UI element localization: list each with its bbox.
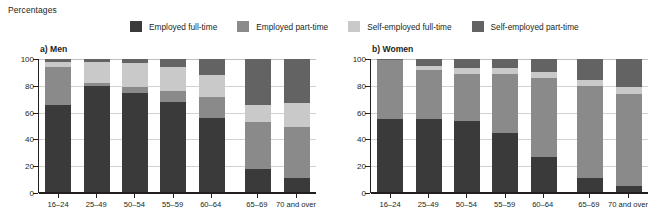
stacked-bar[interactable]: [84, 59, 110, 193]
legend-label-self_employed_full_time: Self-employed full-time: [367, 22, 451, 32]
x-axis-label: 50–54: [447, 194, 485, 212]
x-tick-mark: [543, 194, 544, 198]
bar-segment: [416, 70, 442, 120]
legend-swatch-self_employed_full_time: [348, 21, 360, 32]
bar-segment: [492, 133, 518, 193]
bar-segment: [160, 59, 186, 67]
stacked-bar[interactable]: [45, 59, 71, 193]
x-tick-mark: [173, 194, 174, 198]
legend-swatch-self_employed_part_time: [472, 21, 484, 32]
legend-label-employed_full_time: Employed full-time: [149, 22, 217, 32]
y-tick-label-80: 80: [348, 81, 366, 90]
bar-segment: [416, 119, 442, 193]
x-tick-mark: [466, 194, 467, 198]
y-tick-label-40: 40: [16, 135, 34, 144]
bar-segment: [160, 102, 186, 193]
stacked-bar[interactable]: [416, 59, 442, 193]
x-axis-labels: 16–2425–4950–5455–5960–6465–6970 and ove…: [39, 194, 316, 212]
stacked-bar[interactable]: [616, 59, 642, 193]
x-axis-label: 55–59: [153, 194, 191, 212]
stacked-bar[interactable]: [492, 59, 518, 193]
page-title: Percentages: [8, 5, 57, 15]
bar-segment: [84, 62, 110, 83]
legend-item-self_employed_part_time[interactable]: Self-employed part-time: [472, 21, 579, 32]
bar-segment: [284, 178, 310, 193]
x-axis-line: [371, 192, 648, 193]
stacked-bar[interactable]: [577, 59, 603, 193]
bar-slot-55–59: [486, 59, 524, 193]
bar-segment: [531, 59, 557, 72]
x-axis-label: 70 and over: [276, 194, 316, 212]
bar-segment: [616, 87, 642, 94]
y-tick-label-0: 0: [16, 189, 34, 198]
x-axis-label: 65–69: [570, 194, 608, 212]
y-tick-label-100: 100: [348, 55, 366, 64]
x-tick-mark: [296, 194, 297, 198]
bar-segment: [416, 59, 442, 66]
y-tick-label-40: 40: [348, 135, 366, 144]
bar-segment: [199, 118, 225, 193]
bar-segment: [454, 74, 480, 121]
legend-label-self_employed_part_time: Self-employed part-time: [491, 22, 579, 32]
bar-segment: [199, 97, 225, 118]
bar-segment: [122, 63, 148, 87]
stacked-bar[interactable]: [160, 59, 186, 193]
y-tick-label-100: 100: [16, 55, 34, 64]
bar-segment: [454, 59, 480, 68]
bar-segment: [616, 59, 642, 87]
chart-legend: Employed full-timeEmployed part-timeSelf…: [130, 21, 599, 32]
stacked-bar[interactable]: [454, 59, 480, 193]
legend-item-employed_full_time[interactable]: Employed full-time: [130, 21, 217, 32]
stacked-bar[interactable]: [199, 59, 225, 193]
bar-segment: [377, 119, 403, 193]
bar-slot-25–49: [77, 59, 115, 193]
bar-slot-60–64: [525, 59, 563, 193]
bar-segment: [45, 67, 71, 105]
stacked-bar[interactable]: [245, 59, 271, 193]
bar-segment: [245, 105, 271, 122]
panel-title-women: b) Women: [372, 44, 648, 54]
y-tick-label-60: 60: [16, 108, 34, 117]
x-tick-mark: [96, 194, 97, 198]
bar-slot-16–24: [39, 59, 77, 193]
y-tick-label-0: 0: [348, 189, 366, 198]
bar-segment: [284, 127, 310, 178]
stacked-bar[interactable]: [122, 59, 148, 193]
x-axis-label: 55–59: [485, 194, 523, 212]
bar-segment: [284, 59, 310, 103]
stacked-bar[interactable]: [531, 59, 557, 193]
x-axis-label: 25–49: [409, 194, 447, 212]
x-tick-mark: [589, 194, 590, 198]
x-axis-labels: 16–2425–4950–5455–5960–6465–6970 and ove…: [371, 194, 648, 212]
bar-slot-25–49: [409, 59, 447, 193]
panel-title-men: a) Men: [40, 44, 316, 54]
bar-segment: [245, 169, 271, 193]
bars-container: [39, 59, 316, 193]
x-tick-mark: [211, 194, 212, 198]
bar-segment: [377, 60, 403, 119]
legend-swatch-employed_full_time: [130, 21, 142, 32]
bar-segment: [245, 122, 271, 169]
legend-item-employed_part_time[interactable]: Employed part-time: [237, 21, 328, 32]
y-tick-label-20: 20: [348, 162, 366, 171]
y-tick-label-20: 20: [16, 162, 34, 171]
x-axis-label: 16–24: [39, 194, 77, 212]
x-tick-mark: [257, 194, 258, 198]
x-tick-mark: [134, 194, 135, 198]
bar-segment: [454, 121, 480, 193]
bar-segment: [160, 67, 186, 91]
bar-segment: [531, 157, 557, 193]
bar-slot-65–69: [239, 59, 277, 193]
bar-slot-70-and-over: [610, 59, 648, 193]
chart-panel-men: a) Men 10080604020016–2425–4950–5455–596…: [16, 44, 316, 214]
chart-panel-women: b) Women 10080604020016–2425–4950–5455–5…: [348, 44, 648, 214]
stacked-bar[interactable]: [377, 59, 403, 193]
y-tick-label-60: 60: [348, 108, 366, 117]
plot-area-women: 10080604020016–2425–4950–5455–5960–6465–…: [348, 59, 648, 214]
stacked-bar[interactable]: [284, 59, 310, 193]
bar-segment: [199, 75, 225, 96]
bar-segment: [84, 86, 110, 193]
bar-slot-70-and-over: [278, 59, 316, 193]
x-tick-mark: [390, 194, 391, 198]
legend-item-self_employed_full_time[interactable]: Self-employed full-time: [348, 21, 451, 32]
